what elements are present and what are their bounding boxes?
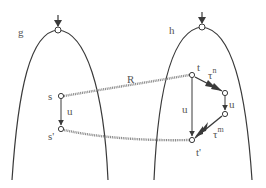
label-s-prime: s' [48,131,54,142]
label-s: s [48,91,52,102]
node-g-root [55,27,61,33]
label-t-prime: t' [196,147,201,158]
node-s-prime [58,126,63,131]
tau-m-sup: m [217,125,223,134]
label-r: R [127,74,134,85]
root-arrow-h-icon [198,12,206,24]
node-t-mid1 [222,90,227,95]
node-t [189,72,194,77]
node-s [58,93,63,98]
label-h: h [169,25,175,36]
label-tau-n: τn [208,68,216,81]
label-u-mid: u [182,104,188,115]
relation-primed-line [64,130,189,140]
tree-h-outline [154,27,252,180]
tree-g-outline [12,30,108,180]
label-tau-m: τm [213,127,224,140]
node-t-prime [189,137,194,142]
tau-n-sup: n [212,66,216,75]
diagram-canvas [0,0,266,188]
label-u-left: u [67,106,73,117]
label-t: t [197,62,200,73]
label-u-right: u [229,99,235,110]
label-g: g [18,27,24,38]
root-arrow-g-icon [54,15,62,27]
node-t-mid2 [222,111,227,116]
node-h-root [199,24,205,30]
